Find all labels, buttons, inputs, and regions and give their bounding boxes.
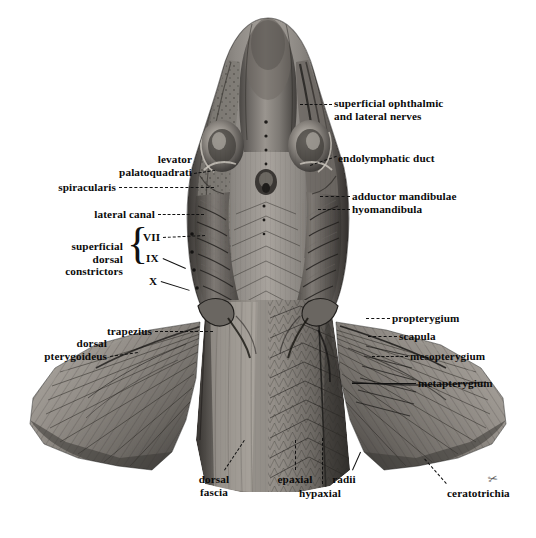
label-superficial-ophthalmic: superficial ophthalmic and lateral nerve… — [334, 97, 443, 122]
label-ceratotrichia: ceratotrichia — [447, 487, 510, 500]
leader-line-scapula — [368, 336, 397, 337]
anatomical-plate: superficial ophthalmic and lateral nerve… — [0, 0, 536, 538]
label-endolymphatic-duct: endolymphatic duct — [338, 152, 435, 165]
label-mesopterygium: mesopterygium — [410, 350, 485, 363]
label-spiracularis: spiracularis — [0, 181, 116, 194]
label-dorsal-pterygoideus: dorsal pterygoideus — [0, 337, 107, 362]
label-adductor-mandibulae: adductor mandibulae — [352, 190, 457, 203]
label-levator-palatoquadrati: levator palatoquadrati — [0, 153, 192, 178]
label-metapterygium: metapterygium — [418, 377, 493, 390]
leader-line-lateral-canal — [158, 214, 204, 215]
leader-line-mesopterygium — [372, 356, 408, 357]
label-superficial-dorsal-constrictors: superficial dorsal constrictors — [0, 240, 123, 278]
constrictor-brace: { — [127, 222, 148, 266]
leader-line-superficial-ophthalmic — [300, 104, 332, 105]
leader-line-metapterygium — [352, 383, 416, 384]
leader-line-trapezius — [155, 331, 213, 332]
leader-line-adductor-mandibulae — [320, 196, 350, 197]
label-nerve-x: X — [149, 275, 157, 288]
leader-line-propterygium — [366, 318, 390, 319]
leader-line-epaxial — [295, 440, 296, 470]
label-radii: radii — [274, 473, 414, 486]
leader-line-hyomandibula — [318, 209, 350, 210]
label-hypaxial: hypaxial — [250, 487, 390, 500]
label-scapula: scapula — [399, 330, 436, 343]
label-propterygium: propterygium — [392, 312, 460, 325]
label-hyomandibula: hyomandibula — [352, 203, 422, 216]
label-trapezius: trapezius — [0, 325, 152, 338]
leader-line-spiracularis — [119, 187, 214, 188]
